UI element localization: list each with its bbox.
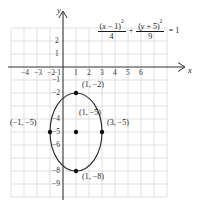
equation-term-2-denominator: 9 — [146, 32, 154, 41]
ellipse-equation: (x − 1)2 4 + (y + 5)2 9 = 1 — [96, 21, 179, 41]
point-center — [74, 130, 78, 134]
ellipse-graph-figure: y x −4 −3 −2 −1 1 2 3 4 5 6 2 1 −1 −2 −4… — [0, 0, 205, 208]
point-top-vertex — [74, 91, 78, 95]
y-axis-label: y — [57, 6, 61, 15]
equation-term-1-numerator: (x − 1)2 — [98, 21, 126, 31]
point-right-vertex — [100, 130, 104, 134]
x-tick--4: −4 — [21, 69, 29, 77]
y-tick--9: −9 — [52, 180, 60, 188]
x-tick-6: 6 — [139, 69, 143, 77]
equation-term-2: (y + 5)2 9 — [136, 21, 164, 41]
y-tick--1: −1 — [52, 76, 60, 84]
x-tick-3: 3 — [100, 69, 104, 77]
point-label-center: (1, −5) — [79, 109, 101, 117]
y-tick-2: 2 — [55, 37, 59, 45]
y-tick--5: −5 — [52, 128, 60, 136]
x-tick-5: 5 — [126, 69, 130, 77]
equation-term-2-numerator: (y + 5)2 — [136, 21, 164, 31]
equation-equals-one: = 1 — [169, 27, 180, 35]
equation-plus-operator: + — [129, 27, 134, 35]
y-tick--4: −4 — [52, 115, 60, 123]
y-axis — [59, 11, 67, 200]
y-tick--8: −8 — [52, 167, 60, 175]
x-tick-4: 4 — [113, 69, 117, 77]
y-tick--2: −2 — [52, 89, 60, 97]
point-label-top-vertex: (1, −2) — [82, 81, 104, 89]
y-tick-1: 1 — [55, 50, 59, 58]
equation-term-1-exponent: 2 — [121, 18, 124, 24]
y-tick--6: −6 — [52, 141, 60, 149]
x-tick-2: 2 — [87, 69, 91, 77]
x-tick--3: −3 — [34, 69, 42, 77]
point-label-bottom-vertex: (1, −8) — [82, 173, 104, 181]
equation-term-2-exponent: 2 — [160, 18, 163, 24]
point-bottom-vertex — [74, 169, 78, 173]
point-label-right-vertex: (3, −5) — [107, 119, 129, 127]
equation-term-1: (x − 1)2 4 — [98, 21, 126, 41]
equation-term-1-denominator: 4 — [108, 32, 116, 41]
point-label-left-vertex: (−1, −5) — [10, 119, 36, 127]
x-tick-1: 1 — [74, 69, 78, 77]
x-axis-label: x — [188, 66, 192, 75]
